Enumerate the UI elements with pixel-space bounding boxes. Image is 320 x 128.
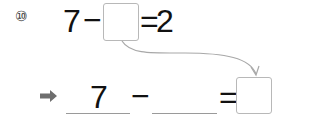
right-arrow-icon — [40, 90, 58, 102]
answer-box[interactable] — [236, 77, 272, 114]
answer-first-value: 7 — [90, 81, 108, 113]
answer-operator: − — [131, 80, 150, 112]
answer-first-line — [66, 113, 130, 114]
connector-curve — [122, 41, 256, 74]
answer-second-line — [152, 113, 217, 114]
answer-equals: = — [219, 81, 238, 113]
